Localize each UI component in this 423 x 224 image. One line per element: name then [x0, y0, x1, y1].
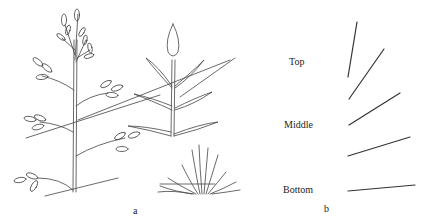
- angle-line-2: [349, 49, 384, 99]
- leaf-angle-lines: [348, 22, 415, 191]
- panel-label-b: b: [324, 203, 329, 214]
- panel-label-a: a: [133, 205, 137, 216]
- branched-plant: [14, 9, 141, 192]
- label-middle: Middle: [284, 119, 313, 130]
- rosette-plant: [158, 145, 240, 194]
- label-bottom: Bottom: [283, 184, 313, 195]
- label-top: Top: [289, 56, 304, 67]
- figure-drawing: [0, 0, 423, 224]
- angle-line-3: [349, 93, 400, 125]
- angle-line-5: [348, 185, 415, 191]
- angle-line-4: [348, 137, 410, 156]
- angle-line-1: [348, 22, 357, 77]
